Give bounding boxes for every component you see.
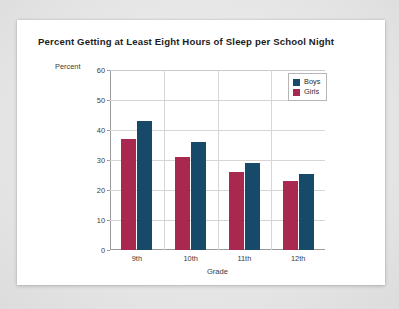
bar-group-9th: 9th bbox=[110, 70, 164, 250]
legend-item-boys: Boys bbox=[293, 77, 320, 87]
y-axis-tick-label: 60 bbox=[97, 66, 105, 75]
legend-item-girls: Girls bbox=[293, 87, 320, 97]
y-axis-tick-label: 30 bbox=[97, 156, 105, 165]
chart-legend: BoysGirls bbox=[288, 73, 327, 101]
chart-card: Percent Getting at Least Eight Hours of … bbox=[17, 20, 385, 285]
bar-group-11th: 11th bbox=[218, 70, 272, 250]
bar-boys-10th bbox=[191, 142, 206, 250]
bar-girls-9th bbox=[121, 139, 136, 250]
x-axis-tick-label: 12th bbox=[291, 254, 305, 263]
y-axis-tick-label: 20 bbox=[97, 186, 105, 195]
x-axis-tick-label: 11th bbox=[237, 254, 251, 263]
y-axis-unit-caption: Percent bbox=[55, 62, 80, 71]
bar-girls-12th bbox=[283, 181, 298, 250]
bar-boys-11th bbox=[245, 163, 260, 250]
x-axis-label: Grade bbox=[110, 267, 325, 276]
legend-swatch-girls bbox=[293, 89, 300, 96]
plot-area: 0102030405060 9th10th11th12th BoysGirls … bbox=[110, 70, 325, 250]
legend-label-boys: Boys bbox=[304, 78, 320, 85]
scanned-page-background: Percent Getting at Least Eight Hours of … bbox=[0, 0, 399, 309]
bar-boys-9th bbox=[137, 121, 152, 250]
bar-boys-12th bbox=[299, 174, 314, 251]
bar-girls-10th bbox=[175, 157, 190, 250]
legend-label-girls: Girls bbox=[304, 88, 319, 95]
y-axis-tick-label: 50 bbox=[97, 96, 105, 105]
x-axis-tick-label: 9th bbox=[132, 254, 142, 263]
y-axis-tick-mark bbox=[107, 250, 110, 251]
y-axis-tick-label: 0 bbox=[101, 246, 105, 255]
bar-girls-11th bbox=[229, 172, 244, 250]
y-axis-tick-label: 40 bbox=[97, 126, 105, 135]
chart-title: Percent Getting at Least Eight Hours of … bbox=[38, 36, 368, 47]
y-axis-tick-label: 10 bbox=[97, 216, 105, 225]
x-axis-tick-label: 10th bbox=[183, 254, 197, 263]
legend-swatch-boys bbox=[293, 79, 300, 86]
bar-group-10th: 10th bbox=[164, 70, 218, 250]
